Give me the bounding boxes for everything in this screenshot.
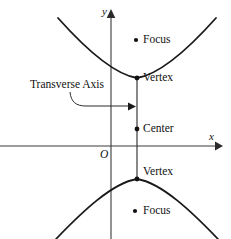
x-axis-arrowhead — [215, 142, 223, 151]
center-label: Center — [143, 123, 174, 135]
hyperbola-lower-branch — [56, 179, 218, 239]
y-axis-arrowhead — [107, 9, 116, 18]
hyperbola-figure: y x O Focus Vertex Center Vertex Focus T… — [0, 0, 231, 239]
y-axis-label: y — [102, 6, 107, 17]
x-axis-label: x — [209, 131, 214, 142]
vertex-upper-label: Vertex — [143, 72, 173, 84]
figure-canvas — [0, 0, 231, 239]
origin-label: O — [100, 149, 108, 161]
center-point — [135, 127, 140, 132]
focus-lower-point — [133, 209, 137, 213]
focus-upper-label: Focus — [143, 34, 170, 46]
focus-lower-label: Focus — [143, 205, 170, 217]
transverse-axis-leader-line — [70, 92, 128, 106]
hyperbola-upper-branch — [58, 18, 216, 78]
vertex-lower-point — [135, 177, 140, 182]
transverse-axis-label: Transverse Axis — [30, 79, 104, 91]
focus-upper-point — [134, 38, 138, 42]
vertex-lower-label: Vertex — [143, 166, 173, 178]
vertex-upper-point — [135, 76, 140, 81]
transverse-axis-leader-arrowhead — [128, 102, 136, 110]
